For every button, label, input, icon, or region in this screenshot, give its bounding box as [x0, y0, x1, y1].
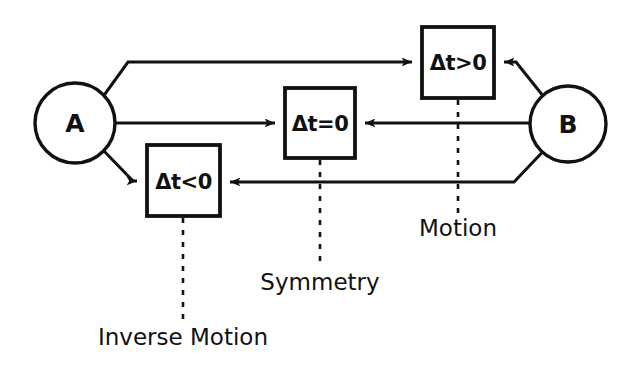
- edge-b-to-dt-gt-0: [504, 62, 544, 97]
- diagram-canvas: Δt>0 Δt=0 Δt<0 A B Motion Symmetry Inver…: [0, 0, 637, 370]
- node-b[interactable]: B: [530, 86, 606, 162]
- box-dt-lt-0[interactable]: Δt<0: [147, 145, 220, 216]
- edge-a-to-dt-gt-0: [104, 62, 413, 96]
- diagram-root: Δt>0 Δt=0 Δt<0 A B Motion Symmetry Inver…: [0, 0, 637, 370]
- callout-label-symmetry: Symmetry: [260, 269, 379, 295]
- callout-label-inverse-motion: Inverse Motion: [98, 324, 268, 350]
- box-dt-lt-0-label: Δt<0: [155, 170, 212, 194]
- node-a-label: A: [65, 109, 85, 138]
- edge-a-to-dt-lt-0: [104, 151, 138, 182]
- box-dt-eq-0[interactable]: Δt=0: [285, 88, 355, 158]
- edge-group-from-b: [230, 62, 544, 182]
- node-a[interactable]: A: [35, 83, 115, 163]
- callout-label-motion: Motion: [419, 215, 497, 241]
- edge-b-to-dt-lt-0: [230, 151, 544, 182]
- box-dt-gt-0[interactable]: Δt>0: [422, 27, 494, 98]
- box-dt-eq-0-label: Δt=0: [292, 112, 349, 136]
- box-dt-gt-0-label: Δt>0: [430, 51, 487, 75]
- node-b-label: B: [558, 110, 577, 139]
- callout-labels: Motion Symmetry Inverse Motion: [98, 215, 497, 350]
